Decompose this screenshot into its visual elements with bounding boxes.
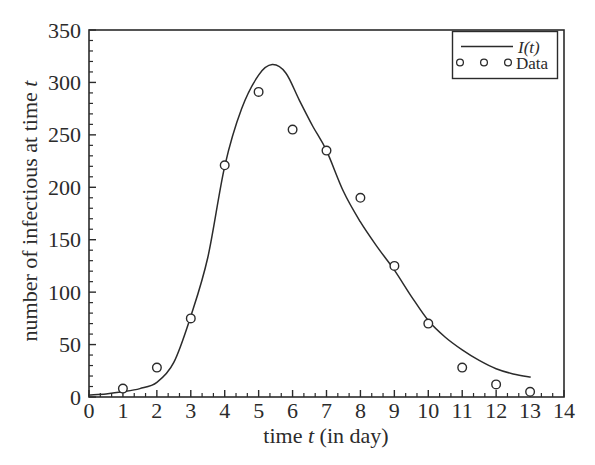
data-point	[322, 146, 331, 155]
legend-circle-marker	[505, 59, 512, 66]
data-point	[492, 380, 501, 389]
chart-figure: 0123456789101112131405010015020025030035…	[0, 0, 595, 465]
data-point	[220, 161, 229, 170]
y-axis-label-var: t	[17, 80, 42, 87]
data-point	[458, 363, 467, 372]
x-tick-label: 8	[355, 398, 366, 423]
data-point	[390, 262, 399, 271]
infectious-curve	[89, 65, 530, 395]
y-tick-label: 200	[48, 175, 81, 200]
x-tick-label: 5	[253, 398, 264, 423]
x-tick-label: 14	[553, 398, 575, 423]
x-tick-label: 10	[417, 398, 439, 423]
data-point	[526, 388, 535, 397]
y-tick-label: 100	[48, 280, 81, 305]
y-tick-label: 350	[48, 18, 81, 43]
y-tick-label: 300	[48, 70, 81, 95]
x-tick-label: 3	[185, 398, 196, 423]
plot-svg: 0123456789101112131405010015020025030035…	[0, 0, 595, 465]
legend-entry-data-label: Data	[516, 54, 549, 73]
x-tick-label: 11	[452, 398, 473, 423]
x-tick-label: 4	[219, 398, 230, 423]
x-axis-label-pre: time	[263, 423, 308, 448]
data-point	[187, 314, 196, 323]
y-tick-label: 50	[59, 332, 81, 357]
x-tick-label: 2	[151, 398, 162, 423]
x-tick-label: 1	[117, 398, 128, 423]
data-point	[119, 384, 128, 393]
data-point	[424, 319, 433, 328]
y-tick-label: 150	[48, 227, 81, 252]
x-tick-label: 13	[519, 398, 541, 423]
data-point	[356, 194, 365, 203]
y-axis-label-pre: number of infectious at time	[17, 87, 42, 342]
x-axis-label: time t (in day)	[263, 423, 388, 448]
data-point	[254, 88, 263, 97]
x-tick-label: 0	[84, 398, 95, 423]
legend: I(t) Data	[453, 32, 558, 79]
y-tick-label: 0	[70, 385, 81, 410]
data-points	[119, 88, 535, 397]
data-point	[288, 125, 297, 134]
x-tick-label: 12	[485, 398, 507, 423]
x-tick-label: 7	[321, 398, 332, 423]
plot-frame	[89, 30, 564, 397]
axis-ticks	[89, 30, 564, 397]
y-axis-label: number of infectious at time t	[17, 80, 42, 342]
data-point	[153, 363, 162, 372]
x-tick-label: 6	[287, 398, 298, 423]
legend-circle-marker	[457, 59, 464, 66]
model-curve	[89, 65, 530, 395]
legend-circle-marker	[481, 59, 488, 66]
x-tick-label: 9	[389, 398, 400, 423]
y-tick-label: 250	[48, 122, 81, 147]
x-axis-label-post: (in day)	[314, 423, 389, 448]
